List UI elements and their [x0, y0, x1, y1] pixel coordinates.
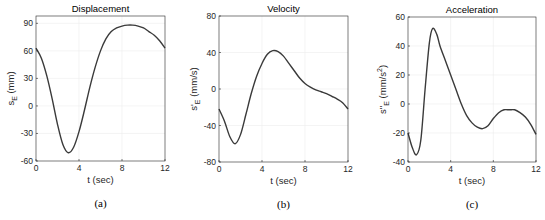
y-tick-label: -60 [21, 156, 34, 166]
y-tick-label: 20 [396, 70, 406, 80]
y-tick-label: 0 [400, 99, 405, 109]
y-tick-label: 60 [24, 46, 34, 56]
x-tick-label: 12 [160, 163, 170, 173]
y-tick-label: -80 [204, 157, 217, 167]
displacement-chart-panel: 04812-60-300306090Displacementt (sec)sE … [0, 0, 182, 220]
displacement-chart: 04812-60-300306090Displacementt (sec)sE … [0, 0, 182, 220]
data-curve [408, 28, 536, 155]
x-axis-label: t (sec) [87, 174, 113, 185]
y-tick-label: 40 [207, 48, 217, 58]
x-tick-label: 8 [303, 164, 308, 174]
y-tick-label: 80 [207, 11, 217, 21]
x-tick-label: 12 [531, 164, 541, 174]
x-tick-label: 0 [34, 163, 39, 173]
chart-title: Acceleration [446, 4, 498, 15]
velocity-chart-panel: 04812-80-4004080Velocityt (sec)s'E (mm/s… [183, 0, 365, 220]
x-tick-label: 4 [77, 163, 82, 173]
acceleration-chart-panel: 04812-40-200204060Accelerationt (sec)s''… [372, 0, 545, 220]
x-tick-label: 8 [491, 164, 496, 174]
chart-title: Velocity [267, 3, 300, 14]
grid-lines [408, 17, 536, 162]
chart-title: Displacement [72, 3, 130, 14]
panel-caption: (c) [466, 198, 479, 211]
x-tick-label: 4 [448, 164, 453, 174]
velocity-chart: 04812-80-4004080Velocityt (sec)s'E (mm/s… [183, 0, 365, 220]
x-tick-label: 4 [260, 164, 265, 174]
panel-caption: (b) [277, 198, 290, 211]
y-tick-label: 0 [28, 101, 33, 111]
y-axis-label: sE (mm) [5, 71, 18, 105]
y-tick-label: -20 [393, 128, 406, 138]
y-axis-label: s''E (mm/s2) [376, 65, 390, 114]
x-tick-label: 0 [406, 164, 411, 174]
x-axis-label: t (sec) [459, 175, 485, 186]
x-tick-label: 0 [217, 164, 222, 174]
y-tick-label: -40 [204, 121, 217, 131]
y-tick-label: 60 [396, 12, 406, 22]
y-tick-label: 0 [211, 84, 216, 94]
acceleration-chart: 04812-40-200204060Accelerationt (sec)s''… [372, 0, 545, 220]
grid-lines [36, 16, 165, 161]
y-tick-label: 30 [24, 73, 34, 83]
y-tick-label: 40 [396, 41, 406, 51]
panel-caption: (a) [94, 197, 107, 210]
y-axis-label: s'E (mm/s) [188, 67, 201, 110]
x-axis-label: t (sec) [270, 175, 296, 186]
x-tick-label: 8 [120, 163, 125, 173]
y-tick-label: -40 [393, 157, 406, 167]
y-tick-label: -30 [21, 128, 34, 138]
x-tick-label: 12 [343, 164, 353, 174]
plot-area-border [408, 17, 536, 162]
plot-area-border [36, 16, 165, 161]
data-curve [219, 50, 348, 143]
y-tick-label: 90 [24, 18, 34, 28]
